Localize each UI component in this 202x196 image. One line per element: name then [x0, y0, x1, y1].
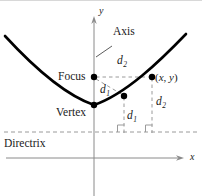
d1-lower-subscript: 1	[133, 115, 137, 124]
axis-label: Axis	[113, 26, 135, 38]
d2-upper-subscript: 2	[123, 60, 127, 69]
right-angle-mark-left	[118, 125, 125, 132]
curve-point-marker	[121, 93, 127, 99]
x-axis-label: x	[190, 152, 194, 162]
x-axis	[6, 155, 184, 160]
xy-point-label: (x, y)	[155, 72, 178, 83]
directrix-label: Directrix	[4, 138, 46, 150]
parabola-figure: y x Axis Focus Vertex Directrix (x, y) d…	[0, 0, 202, 196]
focus-point-marker	[91, 74, 97, 80]
d1-upper-label: d1	[100, 84, 110, 96]
d1-upper-subscript: 1	[106, 89, 110, 98]
y-axis-label: y	[99, 6, 103, 16]
figure-canvas	[0, 0, 202, 196]
d2-right-subscript: 2	[162, 101, 166, 110]
vertex-point-marker	[91, 102, 97, 108]
d2-right-letter: d	[156, 95, 162, 107]
right-angle-mark-right	[146, 125, 153, 132]
focus-label: Focus	[58, 71, 85, 83]
d1-upper-letter: d	[100, 83, 106, 95]
d2-upper-label: d2	[117, 55, 127, 67]
d1-lower-letter: d	[127, 109, 133, 121]
xy-point-close-paren: )	[174, 71, 178, 83]
d2-right-label: d2	[156, 96, 166, 108]
vertex-label: Vertex	[56, 107, 86, 119]
axis-label-leader-line	[96, 46, 112, 57]
d2-upper-letter: d	[117, 54, 123, 66]
d1-lower-label: d1	[127, 110, 137, 122]
